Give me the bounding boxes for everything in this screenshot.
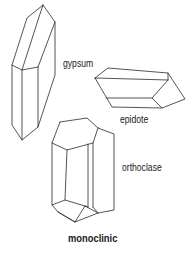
orthoclase-label: orthoclase xyxy=(122,161,162,173)
gypsum-crystal xyxy=(12,5,55,140)
epidote-label: epidote xyxy=(120,113,148,125)
diagram-caption: monoclinic xyxy=(68,232,117,244)
gypsum-label: gypsum xyxy=(63,57,93,69)
epidote-crystal xyxy=(95,68,185,108)
orthoclase-crystal xyxy=(52,118,114,222)
crystal-drawings xyxy=(0,0,196,255)
